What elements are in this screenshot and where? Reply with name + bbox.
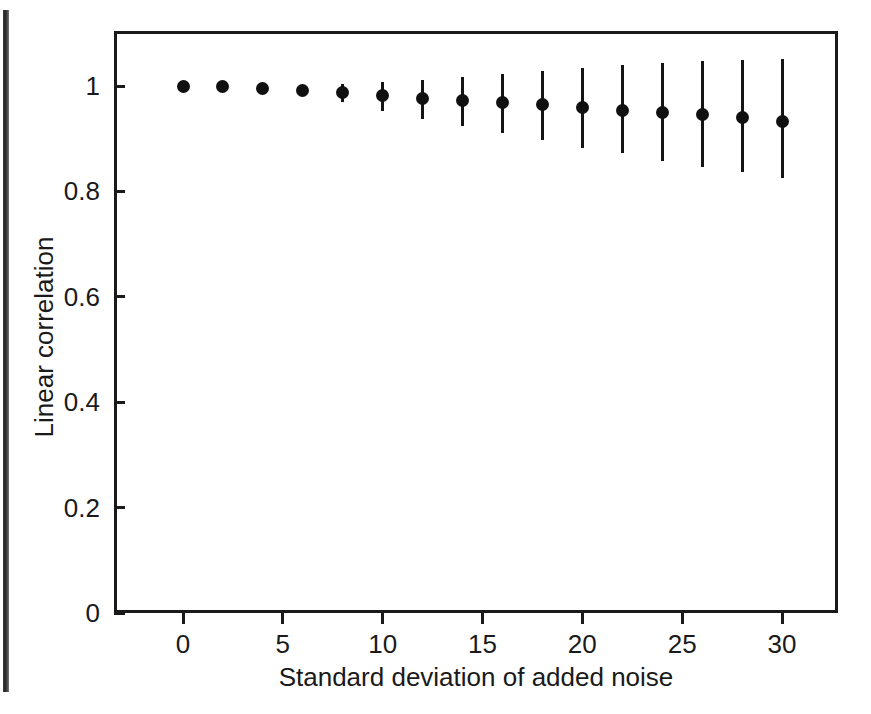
figure-canvas: 00.20.40.60.81051015202530 Standard devi… [0,0,871,714]
x-axis-tick [381,613,384,624]
y-axis-tick-label: 0 [40,600,100,626]
data-point-marker [496,96,509,109]
x-axis-tick-label: 25 [652,631,712,657]
data-point-marker [616,104,629,117]
x-axis-tick [681,613,684,624]
data-point-marker [256,82,269,95]
y-axis-tick [114,295,125,298]
data-point-marker [177,80,190,93]
x-axis-tick [481,613,484,624]
x-axis-tick-label: 15 [453,631,513,657]
y-axis-tick-label: 0.2 [40,495,100,521]
data-point-marker [456,94,469,107]
y-axis-tick [114,401,125,404]
x-axis-tick [581,613,584,624]
plot-frame [114,31,838,613]
y-axis-tick [114,190,125,193]
data-point-marker [736,111,749,124]
data-point-marker [656,106,669,119]
x-axis-tick [781,613,784,624]
x-axis-tick-label: 30 [752,631,812,657]
data-point-marker [776,115,789,128]
x-axis-tick-label: 0 [153,631,213,657]
data-point-marker [576,101,589,114]
y-axis-tick [114,612,125,615]
y-axis-label: Linear correlation [29,187,59,487]
x-axis-tick [182,613,185,624]
x-axis-label: Standard deviation of added noise [114,662,838,692]
y-axis-tick [114,85,125,88]
x-axis-tick-label: 20 [552,631,612,657]
data-point-marker [416,92,429,105]
data-point-marker [536,98,549,111]
x-axis-tick-label: 10 [353,631,413,657]
y-axis-tick-label: 1 [40,73,100,99]
x-axis-tick [281,613,284,624]
scan-edge-artifact [3,10,9,692]
y-axis-tick [114,506,125,509]
x-axis-tick-label: 5 [253,631,313,657]
